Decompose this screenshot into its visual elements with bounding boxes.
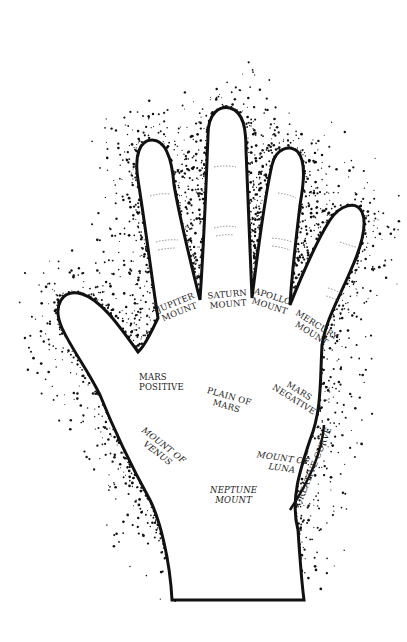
- label-mars-positive: MARSPOSITIVE: [139, 373, 184, 392]
- label-saturn-mount: SATURNMOUNT: [207, 288, 248, 310]
- hand-outline: [58, 108, 364, 600]
- palmistry-diagram: JUPITERMOUNT SATURNMOUNT APOLLOMOUNT MER…: [0, 0, 407, 642]
- hand-illustration: [0, 0, 407, 642]
- label-neptune-mount: NEPTUNEMOUNT: [210, 486, 257, 505]
